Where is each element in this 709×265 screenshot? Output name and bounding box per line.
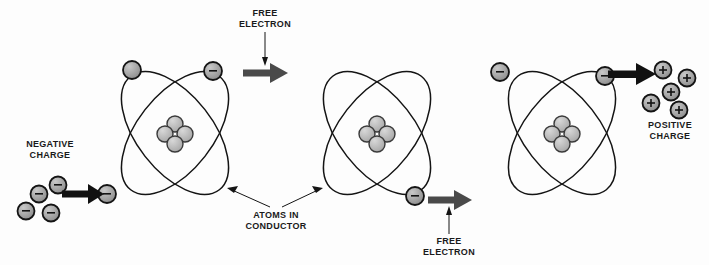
electron [31,186,48,203]
electron [123,61,141,79]
arrow-positive-output [608,63,656,85]
nucleus-right [544,116,580,152]
label-atoms-in-conductor: ATOMS IN CONDUCTOR [234,210,318,232]
leader-atoms-in-conductor [227,186,323,207]
electron-flow-diagram: NEGATIVE CHARGE FREE ELECTRON ATOMS IN C… [0,0,709,265]
negative-charge-cluster [18,177,67,222]
leader-free-electron-top [262,32,268,66]
orbits-middle [303,53,452,213]
nucleus-middle [359,116,395,152]
leader-free-electron-bottom [446,206,452,234]
proton [643,95,660,112]
electron [491,63,509,81]
label-positive-charge: POSITIVE CHARGE [633,120,707,142]
label-free-electron-bottom: FREE ELECTRON [407,236,491,258]
electron [406,187,424,205]
orbits-left [101,53,250,213]
proton [679,70,696,87]
proton [655,62,672,79]
diagram-canvas [0,0,709,265]
nucleus-left [157,116,193,152]
electron [43,205,60,222]
label-free-electron-top: FREE ELECTRON [223,8,307,30]
atom-left [98,53,249,213]
label-negative-charge: NEGATIVE CHARGE [8,139,92,161]
arrow-negative-input [62,184,104,204]
proton [671,102,688,119]
arrow-free-electron-bottom [428,190,472,210]
proton [663,84,680,101]
atom-middle [303,53,452,213]
arrow-free-electron-top [243,63,288,83]
electron [18,203,35,220]
positive-charge-cluster [643,62,696,119]
electron [204,62,222,80]
